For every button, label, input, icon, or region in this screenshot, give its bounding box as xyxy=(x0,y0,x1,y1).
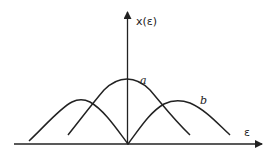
curve-a xyxy=(68,79,190,135)
y-axis-label: x(ε) xyxy=(136,15,157,28)
diagram: x(ε) a b ε xyxy=(0,0,275,155)
x-axis-label: ε xyxy=(244,126,250,139)
curve-a-label: a xyxy=(140,74,147,87)
curve-b-label: b xyxy=(200,94,207,107)
